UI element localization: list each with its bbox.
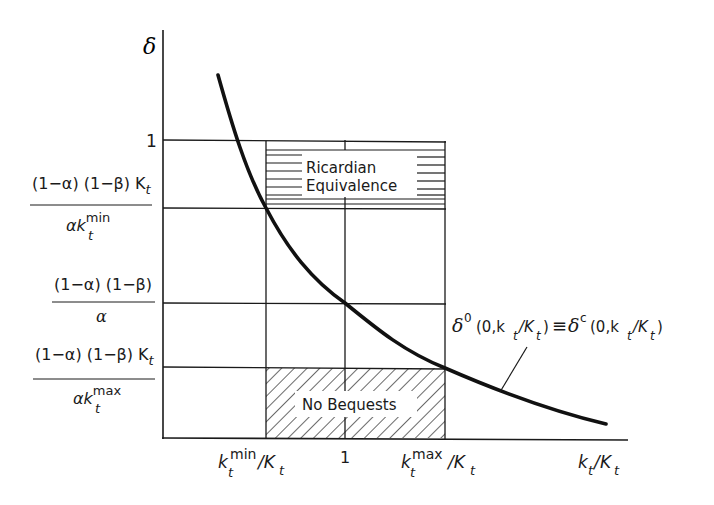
y-tick-kmin: (1−α) (1−β) Kt αkmin t — [30, 174, 152, 243]
svg-text:t: t — [614, 463, 620, 478]
svg-text:(1−α) (1−β) Kt: (1−α) (1−β) Kt — [32, 174, 152, 197]
svg-text:max: max — [412, 446, 443, 462]
svg-text:(0,k: (0,k — [476, 318, 505, 336]
svg-text:/K: /K — [517, 318, 535, 336]
svg-text:/K: /K — [256, 452, 277, 472]
svg-text:t: t — [410, 465, 416, 480]
y-tick-mid: (1−α) (1−β) α — [52, 275, 155, 326]
svg-text:δ: δ — [568, 314, 579, 336]
svg-text:t: t — [650, 329, 656, 343]
svg-text:α: α — [96, 307, 107, 326]
y-tick-one: 1 — [146, 131, 157, 151]
svg-text:): ) — [543, 318, 549, 336]
svg-text:t: t — [536, 329, 542, 343]
svg-text:(0,k: (0,k — [590, 318, 619, 336]
svg-text:(1−α) (1−β) Kt: (1−α) (1−β) Kt — [35, 345, 155, 368]
curve-label-leader — [500, 347, 527, 392]
svg-text:c: c — [580, 311, 587, 325]
ricardian-label-line2: Equivalence — [306, 177, 397, 195]
x-axis-label: k t / K t — [578, 452, 620, 478]
svg-text:t: t — [88, 228, 94, 243]
svg-text:/K: /K — [631, 318, 649, 336]
svg-text:min: min — [230, 446, 256, 462]
diagram-canvas: δ 1 (1−α) (1−β) Kt αkmin t (1−α) (1−β) α… — [0, 0, 714, 505]
svg-text:≡: ≡ — [552, 315, 567, 336]
svg-text:/K: /K — [446, 452, 467, 472]
y-tick-kmax: (1−α) (1−β) Kt αkmax t — [33, 345, 155, 416]
svg-text:t: t — [228, 465, 234, 480]
svg-text:t: t — [279, 463, 285, 478]
svg-text:t: t — [95, 401, 101, 416]
svg-text:δ: δ — [452, 314, 463, 336]
curve-label: δ 0 (0,k t /K t ) ≡ δ c (0,k t /K t ) — [452, 311, 663, 343]
svg-text:0: 0 — [464, 311, 472, 325]
svg-text:(1−α) (1−β): (1−α) (1−β) — [54, 275, 152, 294]
x-tick-kmin: k min t /K t — [218, 446, 285, 480]
svg-text:t: t — [470, 463, 476, 478]
x-axis — [162, 438, 628, 440]
no-bequests-label: No Bequests — [302, 396, 397, 414]
x-tick-kmax: k max t /K t — [401, 446, 476, 480]
svg-text:K: K — [600, 452, 613, 472]
ricardian-label-line1: Ricardian — [306, 159, 376, 177]
y-axis-label: δ — [143, 34, 156, 59]
x-tick-one: 1 — [340, 448, 350, 467]
svg-text:): ) — [657, 318, 663, 336]
